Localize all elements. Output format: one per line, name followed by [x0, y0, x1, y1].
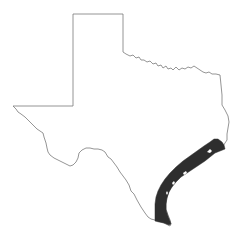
texas-map: [0, 0, 238, 237]
map-container: Texas Gulf Coast range: [0, 0, 238, 237]
state-outline: [13, 14, 229, 226]
coastal-range-region: [155, 139, 225, 225]
